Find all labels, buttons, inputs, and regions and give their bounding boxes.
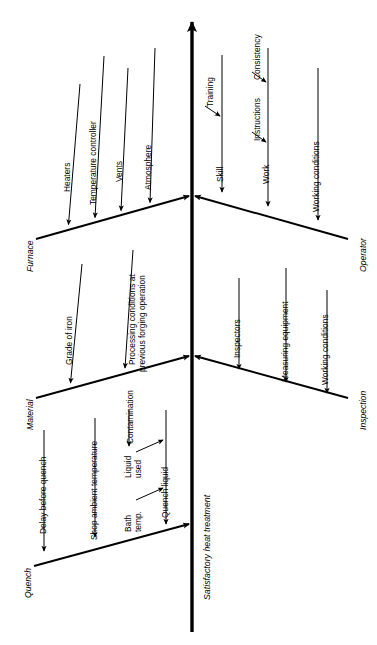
cause-temperature-controller: Temperature controller [89,121,98,205]
cause-skill: Skill [216,167,225,182]
cause-delay-before-quench: Delay before quench [39,457,48,534]
cause-quench-liquid: Quench liquid [161,467,170,518]
branch-operator [195,48,348,239]
subcause-instructions: Instructions [253,98,262,141]
subcause-liquid-used-line2: used [134,460,143,478]
subcause-consistency: Consistency [253,34,262,80]
cause-processing-conditions-line1: Processing conditions at [128,274,137,365]
category-label-furnace: Furnace [26,240,36,272]
branch-material [36,250,189,398]
category-label-operator: Operator [359,238,369,272]
cause-atmosphere: Atmosphere [144,145,153,190]
cause-vents: Vents [115,161,124,182]
cause-operator-working-conditions: Working conditions [312,141,321,212]
subcause-bath-temp-line1: Bath [124,515,133,532]
category-label-inspection: Inspection [359,391,369,430]
effect-label: Satisfactory heat treatment [203,495,213,600]
branch-furnace [36,48,189,239]
subcause-training: Training [206,77,215,107]
cause-heaters: Heaters [63,163,72,192]
cause-processing-conditions-line2: previous forging operation [138,275,147,372]
category-label-material: Material [26,399,36,430]
cause-grade-of-iron: Grade of iron [65,316,74,365]
cause-work: Work [262,165,271,184]
cause-inspection-working-conditions: Working conditions [321,314,330,385]
cause-measuring-equipment: Measuring equipment [281,301,290,382]
subcause-liquid-used-line1: Liquid [124,456,133,478]
cause-shop-ambient-temperature: Shop ambient temperature [90,441,99,540]
subcause-bath-temp-line2: temp. [134,511,143,532]
subcause-contamination: Contamination [126,390,135,444]
cause-inspectors: Inspectors [233,319,242,358]
category-label-quench: Quench [24,568,34,598]
